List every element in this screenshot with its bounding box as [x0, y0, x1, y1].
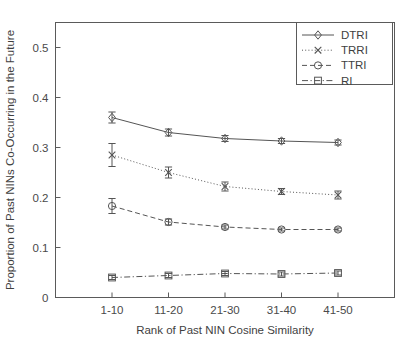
line-chart-canvas: 00.10.20.30.40.5 1-1011-2021-3031-4041-5…: [0, 0, 420, 347]
x-axis-ticks: 1-1011-2021-3031-4041-50: [100, 293, 352, 316]
series-group: [108, 112, 341, 281]
x-tick-label: 31-40: [267, 304, 296, 316]
y-tick-label: 0.5: [33, 42, 49, 54]
y-tick-label: 0.2: [33, 192, 49, 204]
legend-label-TTRI: TTRI: [341, 59, 367, 71]
series-TRRI: [108, 144, 341, 200]
x-tick-label: 1-10: [100, 304, 123, 316]
y-tick-label: 0.3: [33, 142, 49, 154]
series-DTRI: [108, 112, 341, 147]
series-TTRI: [108, 199, 341, 234]
error-bar: [108, 199, 115, 214]
series-RI: [108, 270, 341, 281]
chart-figure: 00.10.20.30.40.5 1-1011-2021-3031-4041-5…: [0, 0, 420, 347]
x-tick-label: 41-50: [323, 304, 352, 316]
y-tick-label: 0.4: [33, 92, 50, 104]
x-tick-label: 21-30: [210, 304, 239, 316]
legend-label-DTRI: DTRI: [341, 29, 368, 41]
legend-label-TRRI: TRRI: [341, 44, 368, 56]
y-tick-label: 0.1: [33, 242, 49, 254]
y-tick-label: 0: [42, 292, 48, 304]
legend-label-RI: RI: [341, 75, 353, 87]
x-tick-label: 11-20: [154, 304, 183, 316]
legend: DTRITRRITTRIRI: [297, 23, 393, 87]
x-axis-title: Rank of Past NIN Cosine Similarity: [136, 324, 314, 336]
y-axis-ticks: 00.10.20.30.40.5: [33, 42, 61, 304]
y-axis-title: Proportion of Past NINs Co-Occurring in …: [4, 30, 16, 290]
